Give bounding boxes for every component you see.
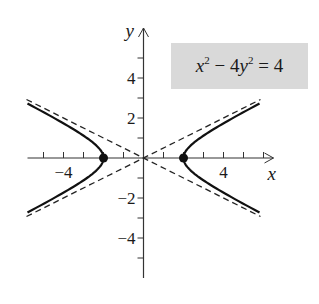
vertex-dot: [99, 154, 108, 163]
vertex-dot: [179, 154, 188, 163]
x-tick-label: 4: [219, 163, 228, 182]
y-tick-label: 2: [127, 109, 136, 128]
eq-rhs: = 4: [253, 55, 283, 76]
x-axis-label: x: [267, 163, 277, 184]
y-tick-label: −2: [117, 189, 135, 208]
x-tick-label: −4: [54, 163, 73, 182]
y-tick-label: −4: [117, 229, 136, 248]
y-tick-label: 4: [127, 69, 136, 88]
equation-box: x2 − 4y2 = 4: [171, 43, 308, 89]
equation-text: x2 − 4y2 = 4: [196, 55, 283, 77]
hyperbola-figure: xy−4442−2−4 x2 − 4y2 = 4: [0, 0, 319, 304]
eq-y: y: [240, 55, 248, 76]
y-axis-label: y: [124, 20, 135, 41]
eq-minus-four: − 4: [210, 55, 240, 76]
